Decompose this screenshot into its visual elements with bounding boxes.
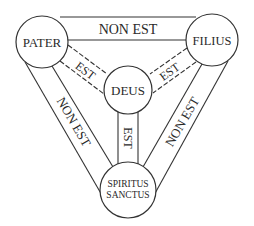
edge-pater-spiritus-inner: [52, 66, 113, 167]
edge-filius-spiritus-label: NON EST: [162, 94, 202, 149]
edge-pater-filius-label: NON EST: [99, 22, 158, 37]
edge-pater-deus-label: EST: [73, 59, 99, 83]
edge-pater-spiritus-outer: [25, 62, 103, 197]
node-pater-label: PATER: [23, 35, 62, 50]
node-filius-label: FILIUS: [193, 34, 232, 48]
node-deus-label: DEUS: [111, 83, 145, 98]
edge-spiritus-deus-label: EST: [121, 127, 135, 149]
node-spiritus-label-line2: SANCTUS: [106, 190, 149, 200]
node-spiritus-label-line1: SPIRITUS: [107, 179, 148, 189]
edge-filius-deus-label: EST: [157, 59, 183, 83]
trinity-shield-diagram: PATER FILIUS DEUS SPIRITUS SANCTUS NON E…: [0, 0, 254, 226]
